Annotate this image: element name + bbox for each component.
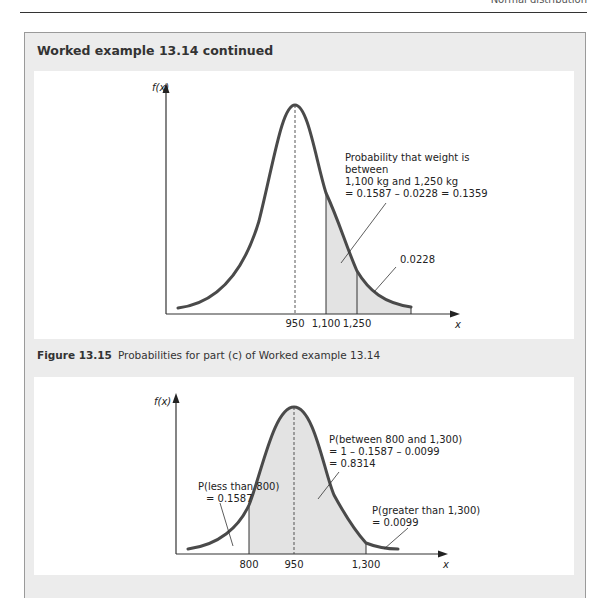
svg-text:1,100 kg and 1,250 kg: 1,100 kg and 1,250 kg: [345, 176, 458, 187]
annotation-between: P(between 800 and 1,300) = 1 – 0.1587 – …: [329, 434, 462, 469]
top-rule: [20, 12, 587, 13]
pointer-line: [384, 528, 408, 549]
annotation-tail: 0.0228: [400, 254, 435, 265]
svg-text:= 0.1587 – 0.0228 = 0.1359: = 0.1587 – 0.0228 = 0.1359: [345, 188, 488, 199]
x-axis-arrow-icon: [450, 311, 460, 318]
shaded-area: [326, 193, 411, 314]
y-axis-arrow-icon: [173, 393, 180, 403]
svg-text:= 0.8314: = 0.8314: [329, 458, 376, 469]
svg-text:P(less than 800): P(less than 800): [198, 481, 279, 492]
x-axis-label: x: [454, 319, 461, 330]
figure-caption: Figure 13.15Probabilities for part (c) o…: [37, 349, 380, 361]
y-axis-label: f(x): [152, 82, 169, 93]
annotation-greater-than: P(greater than 1,300) = 0.0099: [372, 505, 480, 528]
svg-text:P(greater than 1,300): P(greater than 1,300): [372, 505, 480, 516]
panel-title: Worked example 13.14 continued: [37, 43, 273, 58]
x-tick-label: 1,300: [352, 559, 381, 570]
svg-text:= 1 – 0.1587 – 0.0099: = 1 – 0.1587 – 0.0099: [329, 446, 440, 457]
x-tick-label: 1,100: [312, 318, 341, 329]
chart-2-svg: f(x) x 800 950 1,300 P(less than 800) = …: [34, 377, 574, 575]
running-head: Normal distribution: [491, 0, 587, 5]
figure-caption-text: Probabilities for part (c) of Worked exa…: [118, 349, 380, 361]
chart-1-svg: f(x) x 950 1,100 1,250 Probability that …: [34, 71, 574, 339]
y-axis-label: f(x): [154, 396, 171, 407]
pointer-line: [220, 503, 233, 546]
figure-number: Figure 13.15: [37, 349, 112, 361]
svg-text:= 0.0099: = 0.0099: [372, 517, 419, 528]
svg-text:P(between 800 and 1,300): P(between 800 and 1,300): [329, 434, 462, 445]
pointer-line: [374, 267, 396, 292]
x-tick-label: 950: [284, 559, 303, 570]
svg-text:= 0.1587: = 0.1587: [206, 493, 253, 504]
x-tick-label: 800: [239, 559, 258, 570]
x-axis-arrow-icon: [438, 551, 448, 558]
x-tick-label: 950: [285, 318, 304, 329]
annotation-between: Probability that weight is between 1,100…: [345, 152, 488, 199]
svg-text:Probability that weight is: Probability that weight is: [345, 152, 469, 163]
x-tick-label: 1,250: [343, 318, 372, 329]
chart-2: f(x) x 800 950 1,300 P(less than 800) = …: [34, 377, 574, 575]
chart-1: f(x) x 950 1,100 1,250 Probability that …: [34, 71, 574, 339]
normal-curve: [178, 105, 411, 308]
worked-example-panel: Worked example 13.14 continued f(x) x: [24, 32, 586, 598]
svg-text:between: between: [345, 164, 388, 175]
x-axis-label: x: [442, 559, 449, 570]
pointer-line: [341, 203, 386, 263]
